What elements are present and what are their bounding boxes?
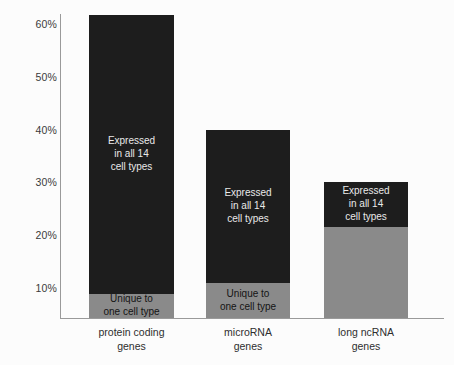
bar-segment-unique-one-cell-type[interactable]: Unique to one cell type xyxy=(206,283,290,318)
bar-microrna-genes[interactable]: Expressed in all 14 cell types Unique to… xyxy=(206,130,290,318)
bar-segment-unique-one-cell-type[interactable] xyxy=(324,227,408,318)
y-axis-tick-10: 10% xyxy=(11,282,57,294)
bar-segment-label: Unique to one cell type xyxy=(101,293,161,319)
bar-segment-label: Unique to one cell type xyxy=(218,288,278,314)
bar-segment-unique-one-cell-type[interactable]: Unique to one cell type xyxy=(89,294,174,318)
bar-long-ncrna-genes[interactable]: Expressed in all 14 cell types xyxy=(324,182,408,318)
y-axis-tick-20: 20% xyxy=(11,229,57,241)
bar-segment-label: Expressed in all 14 cell types xyxy=(222,187,273,225)
bar-segment-expressed-all-14[interactable]: Expressed in all 14 cell types xyxy=(206,130,290,283)
y-axis-tick-50: 50% xyxy=(11,71,57,83)
bar-segment-label: Expressed in all 14 cell types xyxy=(340,185,391,223)
y-axis-tick-30: 30% xyxy=(11,176,57,188)
x-axis-label-protein-coding-genes: protein coding genes xyxy=(79,325,184,353)
x-axis-label-long-ncrna-genes: long ncRNA genes xyxy=(314,325,418,353)
bar-segment-expressed-all-14[interactable]: Expressed in all 14 cell types xyxy=(89,15,174,294)
y-axis-tick-labels: 60% 50% 40% 30% 20% 10% xyxy=(0,0,57,365)
bar-protein-coding-genes[interactable]: Expressed in all 14 cell types Unique to… xyxy=(89,15,174,318)
bar-segment-expressed-all-14[interactable]: Expressed in all 14 cell types xyxy=(324,182,408,227)
bar-segment-label: Expressed in all 14 cell types xyxy=(106,135,157,173)
y-axis-tick-40: 40% xyxy=(11,124,57,136)
x-axis-label-microrna-genes: microRNA genes xyxy=(196,325,300,353)
y-axis-line xyxy=(60,14,61,319)
y-axis-tick-60: 60% xyxy=(11,18,57,30)
stacked-bar-chart: 60% 50% 40% 30% 20% 10% Expressed in all… xyxy=(0,0,454,365)
